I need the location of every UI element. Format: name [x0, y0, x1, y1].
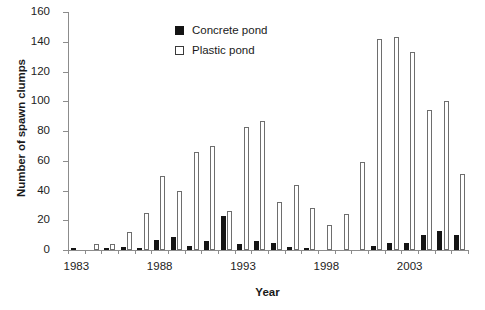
bar-1983-concrete [71, 248, 76, 250]
bar-2001-plastic [377, 39, 382, 250]
y-tick-label-120: 120 [0, 66, 50, 78]
x-tick-24 [468, 250, 469, 254]
bar-1995-plastic [277, 202, 282, 250]
bar-1998-plastic [327, 225, 332, 250]
bar-1990-plastic [194, 152, 199, 250]
x-tick-20 [401, 250, 402, 254]
bar-1997-concrete [304, 248, 309, 250]
x-tick-label-1998: 1998 [296, 260, 356, 272]
bar-2003-plastic [410, 52, 415, 250]
x-tick-2 [101, 250, 102, 254]
bar-2006-plastic [460, 174, 465, 250]
bar-2000-plastic [360, 162, 365, 250]
bar-1989-concrete [171, 237, 176, 250]
y-tick-60 [63, 161, 68, 162]
y-tick-160 [63, 12, 68, 13]
y-tick-label-160: 160 [0, 6, 50, 18]
bar-2002-plastic [394, 37, 399, 250]
x-tick-1 [85, 250, 86, 254]
x-tick-18 [368, 250, 369, 254]
x-tick-9 [218, 250, 219, 254]
bar-1991-concrete [204, 241, 209, 250]
bar-1985-concrete [104, 248, 109, 250]
y-tick-label-20: 20 [0, 214, 50, 226]
x-tick-19 [385, 250, 386, 254]
bar-2004-plastic [427, 110, 432, 250]
x-tick-11 [251, 250, 252, 254]
x-tick-17 [351, 250, 352, 254]
x-tick-14 [301, 250, 302, 254]
y-tick-20 [63, 220, 68, 221]
bar-1988-concrete [154, 240, 159, 250]
bar-1996-concrete [287, 247, 292, 250]
x-tick-23 [451, 250, 452, 254]
bar-1985-plastic [110, 244, 115, 250]
x-tick-5 [151, 250, 152, 254]
x-tick-label-1993: 1993 [213, 260, 273, 272]
y-tick-label-40: 40 [0, 185, 50, 197]
bar-1994-plastic [260, 121, 265, 250]
bar-1990-concrete [187, 246, 192, 250]
x-tick-22 [435, 250, 436, 254]
y-tick-label-60: 60 [0, 155, 50, 167]
bar-1986-plastic [127, 232, 132, 250]
y-tick-40 [63, 191, 68, 192]
x-tick-8 [201, 250, 202, 254]
bar-1987-concrete [137, 248, 142, 250]
bar-2006-concrete [454, 235, 459, 250]
bar-1991-plastic [210, 146, 215, 250]
y-axis-line [68, 12, 69, 250]
bar-1995-concrete [271, 243, 276, 250]
x-tick-label-1983: 1983 [46, 260, 106, 272]
y-tick-140 [63, 42, 68, 43]
bar-1984-plastic [94, 244, 99, 250]
x-tick-21 [418, 250, 419, 254]
bar-1997-plastic [310, 208, 315, 250]
x-tick-10 [235, 250, 236, 254]
x-tick-12 [268, 250, 269, 254]
bar-1992-concrete [221, 216, 226, 250]
bar-2003-concrete [404, 243, 409, 250]
bar-1986-concrete [121, 247, 126, 250]
x-tick-13 [285, 250, 286, 254]
bar-1993-concrete [237, 244, 242, 250]
x-tick-label-1988: 1988 [130, 260, 190, 272]
x-tick-15 [318, 250, 319, 254]
bar-1999-plastic [344, 214, 349, 250]
bar-2004-concrete [421, 235, 426, 250]
bar-1988-plastic [160, 176, 165, 250]
bar-2001-concrete [371, 246, 376, 250]
bar-1989-plastic [177, 191, 182, 251]
x-tick-3 [118, 250, 119, 254]
y-tick-label-80: 80 [0, 125, 50, 137]
y-tick-label-0: 0 [0, 244, 50, 256]
bar-1994-concrete [254, 241, 259, 250]
y-tick-label-140: 140 [0, 36, 50, 48]
spawn-clumps-bar-chart: Number of spawn clumps Year Concrete pon… [0, 0, 485, 310]
y-tick-120 [63, 72, 68, 73]
x-tick-7 [185, 250, 186, 254]
x-tick-label-2003: 2003 [380, 260, 440, 272]
bar-2005-concrete [437, 231, 442, 250]
bar-1987-plastic [144, 213, 149, 250]
x-tick-0 [68, 250, 69, 254]
x-tick-4 [135, 250, 136, 254]
y-tick-label-100: 100 [0, 95, 50, 107]
y-tick-100 [63, 101, 68, 102]
bar-1992-plastic [227, 211, 232, 250]
x-tick-6 [168, 250, 169, 254]
plot-area: 020406080100120140160 198319881993199820… [68, 12, 468, 250]
x-tick-16 [335, 250, 336, 254]
y-tick-80 [63, 131, 68, 132]
bar-1996-plastic [294, 185, 299, 250]
bar-1993-plastic [244, 127, 249, 250]
bar-2005-plastic [444, 101, 449, 250]
bar-2002-concrete [387, 243, 392, 250]
x-axis-title: Year [0, 286, 485, 298]
